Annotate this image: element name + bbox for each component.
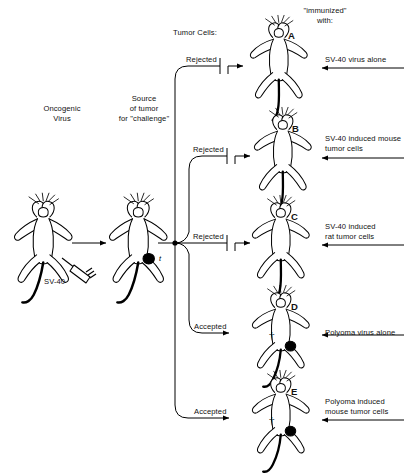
outcome-label-d: Accepted xyxy=(194,322,226,332)
header-tumor-cells: Tumor Cells: xyxy=(173,28,217,38)
row-letter-c: C xyxy=(291,212,298,222)
row-letter-d: D xyxy=(291,302,298,312)
header-tumor-source: Source of tumor for "challenge" xyxy=(96,94,192,124)
tumor-marker xyxy=(285,426,296,436)
outcome-label-b: Rejected xyxy=(193,145,224,155)
immunized-with-c: SV-40 induced rat tumor cells xyxy=(325,222,404,242)
death-symbol-d: † xyxy=(269,330,275,341)
outcome-label-a: Rejected xyxy=(186,55,217,65)
label-tumor-t: t xyxy=(159,254,161,263)
death-symbol-e: † xyxy=(269,415,275,426)
label-sv40-inoculum: SV-40 xyxy=(44,277,65,287)
header-immunized-with: "immunized" with: xyxy=(270,6,380,26)
outcome-label-c: Rejected xyxy=(193,232,224,242)
immunized-with-b: SV-40 induced mouse tumor cells xyxy=(325,134,404,154)
immunized-with-d: Polyoma virus alone xyxy=(325,328,404,338)
outcome-label-e: Accepted xyxy=(194,407,226,417)
row-letter-b: B xyxy=(292,124,299,134)
row-letter-e: E xyxy=(291,387,297,397)
diagram-canvas: Oncogenic Virus Source of tumor for "cha… xyxy=(0,0,404,474)
immunized-with-a: SV-40 virus alone xyxy=(325,55,404,65)
row-letter-a: A xyxy=(288,31,295,41)
immunized-with-e: Polyoma induced mouse tumor cells xyxy=(325,397,404,417)
